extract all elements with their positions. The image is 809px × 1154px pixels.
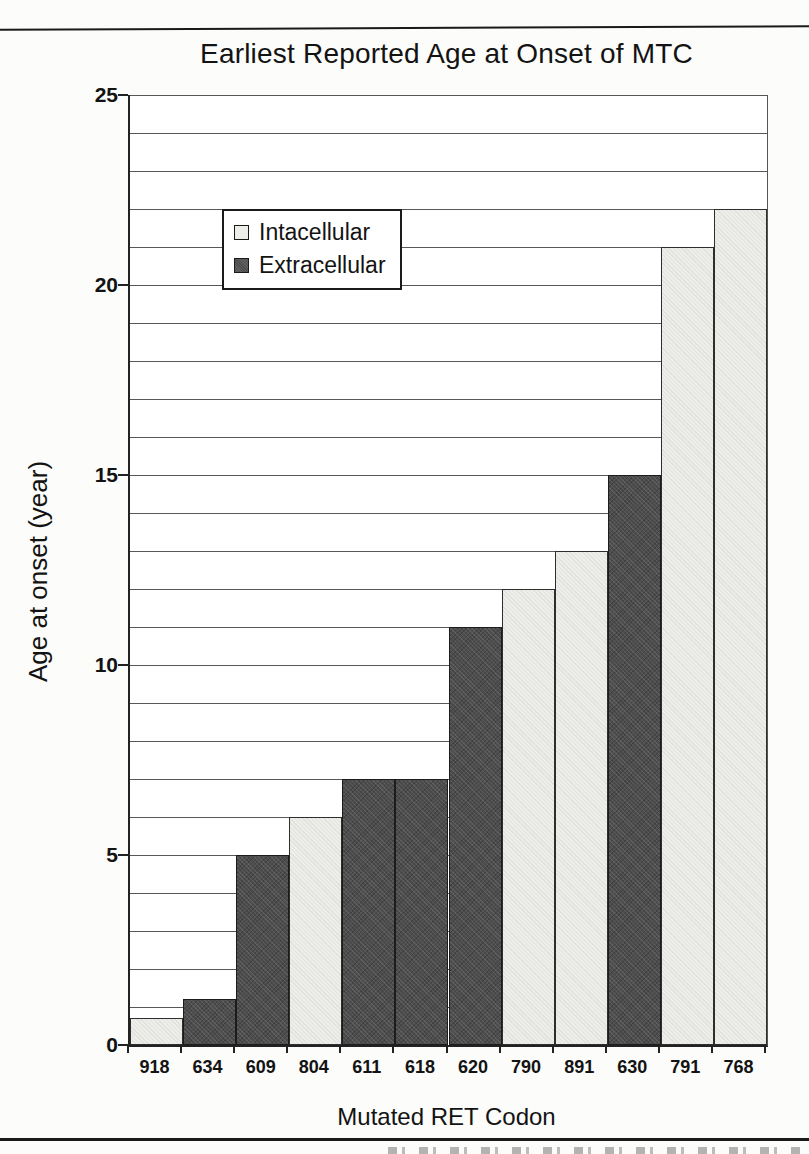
gridline — [130, 171, 767, 172]
x-category-label: 630 — [606, 1057, 659, 1078]
gridline — [130, 95, 767, 96]
legend-entry-extracellular: Extracellular — [234, 249, 392, 282]
x-tick-mark — [711, 1046, 713, 1053]
y-tick-mark — [118, 854, 128, 856]
y-axis-title: Age at onset (year) — [23, 402, 54, 742]
x-category-label: 791 — [659, 1057, 712, 1078]
legend-swatch-icon — [234, 258, 249, 273]
y-tick-label: 10 — [68, 654, 118, 675]
x-tick-mark — [286, 1046, 288, 1053]
bar-918 — [130, 1018, 183, 1045]
bar-618 — [395, 779, 448, 1045]
top-rule — [0, 25, 809, 31]
x-tick-mark — [339, 1046, 341, 1053]
bar-891 — [555, 551, 608, 1045]
plot-area: IntacellularExtracellular — [128, 95, 768, 1047]
cropped-caption-fragment — [388, 1147, 803, 1154]
x-tick-mark — [658, 1046, 660, 1053]
legend: IntacellularExtracellular — [222, 209, 402, 290]
scanned-chart-page: Earliest Reported Age at Onset of MTC Ag… — [0, 0, 809, 1154]
bar-790 — [502, 589, 555, 1045]
x-category-label: 768 — [712, 1057, 765, 1078]
y-tick-label: 15 — [68, 464, 118, 485]
gridline — [130, 133, 767, 134]
bar-620 — [449, 627, 502, 1045]
x-category-label: 620 — [447, 1057, 500, 1078]
x-category-label: 611 — [340, 1057, 393, 1078]
x-tick-mark — [446, 1046, 448, 1053]
bar-804 — [289, 817, 342, 1045]
x-category-label: 609 — [234, 1057, 287, 1078]
x-category-label: 790 — [500, 1057, 553, 1078]
bar-609 — [236, 855, 289, 1045]
y-tick-mark — [118, 474, 128, 476]
x-axis-title: Mutated RET Codon — [128, 1103, 765, 1131]
bar-791 — [661, 247, 714, 1045]
x-tick-mark — [392, 1046, 394, 1053]
y-tick-label: 0 — [68, 1034, 118, 1055]
x-tick-mark — [180, 1046, 182, 1053]
bottom-rule — [0, 1138, 809, 1141]
y-tick-label: 5 — [68, 844, 118, 865]
x-tick-mark — [499, 1046, 501, 1053]
x-tick-mark — [605, 1046, 607, 1053]
x-tick-mark — [127, 1046, 129, 1053]
legend-label: Intacellular — [259, 219, 370, 246]
x-category-label: 804 — [287, 1057, 340, 1078]
bar-630 — [608, 475, 661, 1045]
bar-634 — [183, 999, 236, 1045]
y-tick-mark — [118, 94, 128, 96]
x-category-label: 618 — [393, 1057, 446, 1078]
legend-swatch-icon — [234, 225, 249, 240]
x-tick-mark — [552, 1046, 554, 1053]
x-tick-mark — [764, 1046, 766, 1053]
y-tick-label: 20 — [68, 274, 118, 295]
bar-611 — [342, 779, 395, 1045]
y-tick-mark — [118, 664, 128, 666]
chart-title: Earliest Reported Age at Onset of MTC — [128, 38, 765, 70]
y-tick-mark — [118, 284, 128, 286]
y-tick-label: 25 — [68, 84, 118, 105]
bar-768 — [714, 209, 767, 1045]
x-category-label: 634 — [181, 1057, 234, 1078]
legend-entry-intacellular: Intacellular — [234, 216, 392, 249]
x-category-label: 891 — [553, 1057, 606, 1078]
x-category-label: 918 — [128, 1057, 181, 1078]
legend-label: Extracellular — [259, 252, 386, 279]
x-tick-mark — [233, 1046, 235, 1053]
